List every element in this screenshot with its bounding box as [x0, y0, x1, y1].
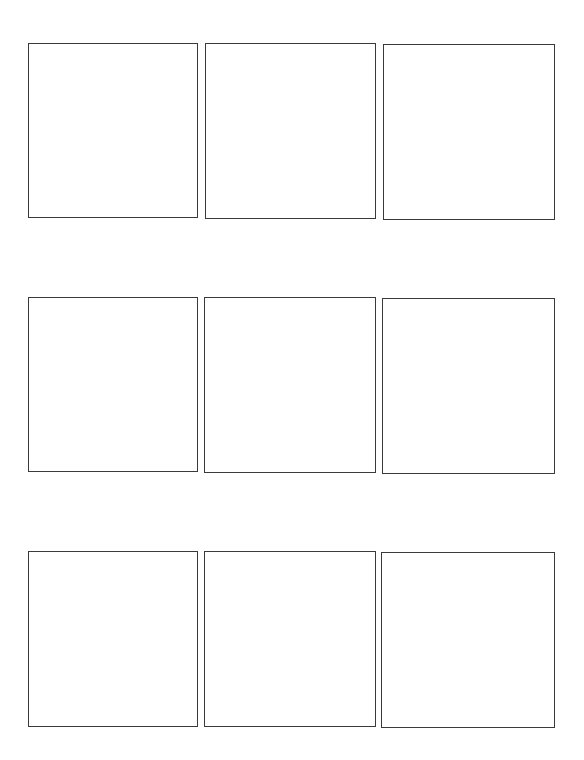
panel-r2-c3 — [382, 298, 555, 474]
panel-r2-c2 — [204, 297, 376, 473]
panel-r1-c2 — [205, 43, 376, 219]
panel-r1-c3 — [383, 44, 555, 220]
panel-r3-c2 — [204, 551, 376, 727]
panel-r1-c1 — [28, 43, 198, 218]
page — [0, 0, 584, 760]
panel-r3-c1 — [28, 551, 198, 727]
panel-r2-c1 — [28, 297, 198, 472]
panel-r3-c3 — [381, 552, 555, 728]
